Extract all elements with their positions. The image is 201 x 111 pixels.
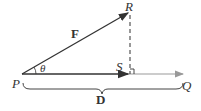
- diagram-svg: R F θ S P Q D: [0, 0, 201, 111]
- label-f: F: [71, 26, 79, 41]
- vector-diagram: R F θ S P Q D: [0, 0, 201, 111]
- label-d: D: [96, 92, 105, 107]
- label-theta: θ: [40, 62, 46, 74]
- right-angle-marker: [130, 69, 134, 74]
- label-r: R: [124, 0, 133, 14]
- label-q: Q: [182, 78, 192, 93]
- vector-f-line: [22, 13, 128, 74]
- label-p: P: [11, 76, 20, 91]
- angle-arc: [34, 67, 36, 74]
- label-s: S: [116, 59, 123, 74]
